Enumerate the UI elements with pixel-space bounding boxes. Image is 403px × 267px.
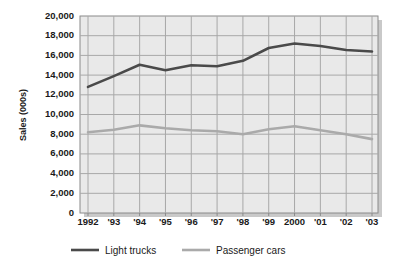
x-tick-label: 2000 <box>284 216 305 227</box>
chart-legend: Light trucksPassenger cars <box>71 245 285 256</box>
x-tick-label: '96 <box>185 216 198 227</box>
x-tick-label: '02 <box>340 216 353 227</box>
y-tick-label: 8,000 <box>50 128 74 139</box>
x-tick-label: '03 <box>366 216 379 227</box>
x-tick-label: '99 <box>262 216 275 227</box>
y-axis-tick-labels: 20,00018,00016,00014,00012,00010,0008,00… <box>45 10 74 218</box>
y-tick-label: 0 <box>69 207 74 218</box>
chart-canvas: 20,00018,00016,00014,00012,00010,0008,00… <box>0 0 403 267</box>
x-tick-label: '93 <box>107 216 120 227</box>
sales-line-chart: 20,00018,00016,00014,00012,00010,0008,00… <box>0 0 403 267</box>
legend-label-light-trucks: Light trucks <box>105 245 156 256</box>
x-tick-label: '97 <box>211 216 224 227</box>
x-tick-label: '94 <box>133 216 147 227</box>
x-tick-label: '95 <box>159 216 173 227</box>
y-tick-label: 12,000 <box>45 88 74 99</box>
x-tick-label: '98 <box>236 216 249 227</box>
y-tick-label: 20,000 <box>45 10 74 21</box>
x-tick-label: '01 <box>314 216 328 227</box>
y-tick-label: 10,000 <box>45 108 74 119</box>
x-axis-tick-labels: 1992'93'94'95'96'97'98'992000'01'02'03 <box>77 216 378 227</box>
y-tick-label: 14,000 <box>45 69 74 80</box>
y-tick-label: 4,000 <box>50 167 74 178</box>
y-tick-label: 18,000 <box>45 29 74 40</box>
y-axis-title: Sales (000s) <box>18 89 28 141</box>
x-tick-label: 1992 <box>77 216 98 227</box>
y-tick-label: 2,000 <box>50 187 74 198</box>
y-tick-label: 16,000 <box>45 49 74 60</box>
y-tick-label: 6,000 <box>50 147 74 158</box>
legend-label-passenger-cars: Passenger cars <box>216 245 285 256</box>
